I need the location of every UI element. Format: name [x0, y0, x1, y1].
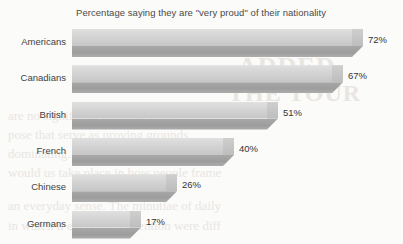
plot-area: Americans 72% Canadians 67% British 51% — [0, 26, 403, 244]
bar-british — [72, 102, 278, 132]
bar-value-label: 26% — [182, 179, 201, 190]
bar-end-chamfer — [130, 211, 141, 228]
bar-top-face — [72, 138, 234, 155]
category-label: Americans — [0, 36, 66, 47]
bar-end-chamfer — [267, 102, 278, 119]
bar-value-label: 51% — [283, 107, 302, 118]
chart-title: Percentage saying they are "very proud" … — [76, 7, 326, 18]
bar-top-face — [72, 65, 343, 82]
bar-top-face — [72, 29, 363, 46]
category-label: Canadians — [0, 72, 66, 83]
bar-top-face — [72, 174, 177, 191]
bar-row: Canadians 67% — [0, 62, 403, 98]
bar-chinese — [72, 174, 177, 204]
bar-end-chamfer — [352, 29, 363, 46]
bar-value-label: 67% — [348, 70, 367, 81]
bar-row: French 40% — [0, 135, 403, 171]
bar-row: British 51% — [0, 99, 403, 135]
bar-top-face — [72, 211, 141, 228]
category-label: Chinese — [0, 181, 66, 192]
bar-value-label: 17% — [146, 216, 165, 227]
bar-americans — [72, 29, 363, 59]
bar-side-face — [72, 46, 363, 57]
bar-canadians — [72, 65, 343, 95]
bar-chart: ADDED THE TOUR are no significant forms … — [0, 0, 403, 244]
category-label: French — [0, 145, 66, 156]
bar-top-face — [72, 102, 278, 119]
bar-side-face — [72, 191, 177, 202]
bar-row: Americans 72% — [0, 26, 403, 62]
bar-end-chamfer — [166, 174, 177, 191]
bar-side-face — [72, 155, 234, 166]
bar-side-face — [72, 119, 278, 130]
bar-row: Germans 17% — [0, 208, 403, 244]
bar-value-label: 40% — [239, 143, 258, 154]
bar-value-label: 72% — [368, 34, 387, 45]
category-label: British — [0, 109, 66, 120]
bar-end-chamfer — [223, 138, 234, 155]
bar-side-face — [72, 228, 141, 239]
bar-germans — [72, 211, 141, 241]
bar-french — [72, 138, 234, 168]
bar-end-chamfer — [332, 65, 343, 82]
bar-side-face — [72, 82, 343, 93]
category-label: Germans — [0, 218, 66, 229]
bar-row: Chinese 26% — [0, 171, 403, 207]
